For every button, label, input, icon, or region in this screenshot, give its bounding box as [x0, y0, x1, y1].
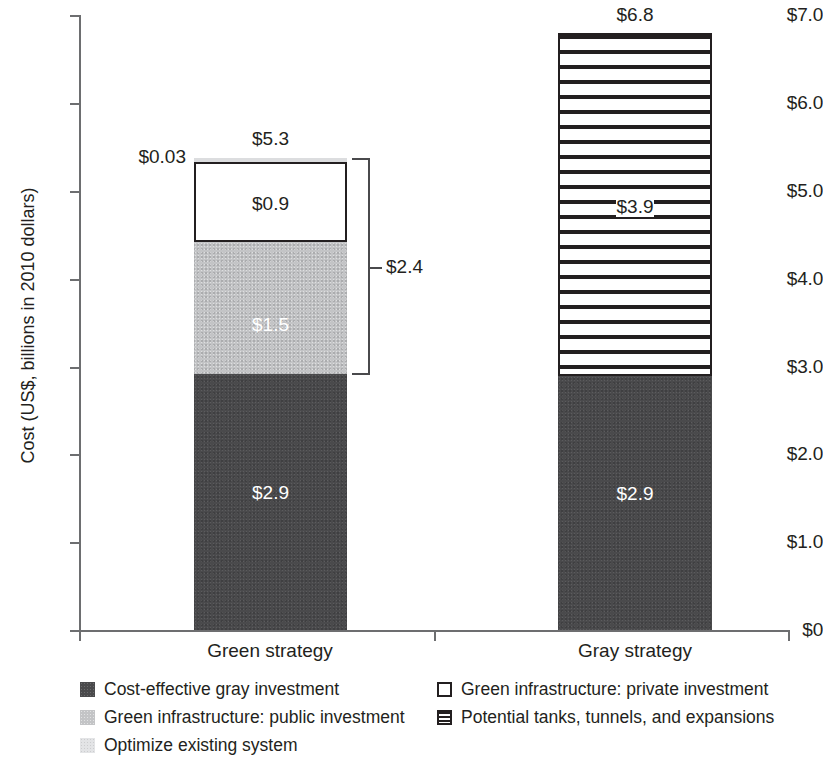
y-tick-5: [70, 191, 80, 193]
bracket-green-incremental: [352, 158, 370, 375]
x-tick-start: [79, 630, 81, 641]
legend-item-green-private-investment: Green infrastructure: private investment: [437, 676, 774, 702]
legend-swatch-light-gray-icon: [80, 738, 95, 753]
y-tick-1: [70, 542, 80, 544]
total-label-green: $5.3: [194, 128, 347, 150]
y-tick-7: [70, 15, 80, 17]
legend-column-left: Cost-effective gray investment Green inf…: [80, 676, 405, 760]
y-tick-label-0: $0: [761, 619, 823, 641]
legend-item-green-public-investment: Green infrastructure: public investment: [80, 704, 405, 730]
segment-label-base-gray: $2.9: [558, 484, 712, 503]
y-tick-label-5: $5.0: [761, 180, 823, 202]
bar-green-strategy: $0.9 $1.5 $2.9: [194, 158, 347, 630]
callout-label-optimize: $0.03: [108, 146, 186, 168]
legend-label-green-public-investment: Green infrastructure: public investment: [104, 707, 405, 728]
y-tick-2: [70, 454, 80, 456]
segment-cost-effective-gray-green-bar: $2.9: [194, 374, 347, 630]
y-tick-label-3: $3.0: [761, 356, 823, 378]
y-tick-label-4: $4.0: [761, 268, 823, 290]
total-label-gray: $6.8: [558, 4, 712, 26]
legend-label-potential-tanks-tunnels-expansions: Potential tanks, tunnels, and expansions: [461, 707, 774, 728]
bar-gray-strategy: $3.9 $2.9: [558, 33, 712, 630]
y-tick-3: [70, 367, 80, 369]
x-category-label-green-strategy: Green strategy: [180, 640, 360, 662]
segment-label-potential: $3.9: [560, 197, 710, 216]
segment-cost-effective-gray-gray-bar: $2.9: [558, 376, 712, 630]
x-category-label-gray-strategy: Gray strategy: [545, 640, 725, 662]
x-tick-mid: [434, 630, 436, 641]
segment-potential-tanks-tunnels-expansions: $3.9: [558, 33, 712, 376]
legend-column-right: Green infrastructure: private investment…: [437, 676, 774, 732]
legend-item-cost-effective-gray-investment: Cost-effective gray investment: [80, 676, 405, 702]
legend-swatch-mid-gray-icon: [80, 710, 95, 725]
y-tick-label-1: $1.0: [761, 531, 823, 553]
bracket-top-arm: [352, 158, 370, 160]
y-tick-label-6: $6.0: [761, 92, 823, 114]
segment-green-private-investment: $0.9: [194, 162, 347, 242]
legend-label-green-private-investment: Green infrastructure: private investment: [461, 679, 768, 700]
legend-label-optimize-existing-system: Optimize existing system: [104, 735, 298, 756]
y-axis-title: Cost (US$, billions in 2010 dollars): [18, 46, 39, 606]
segment-green-public-investment: $1.5: [194, 242, 347, 374]
y-tick-4: [70, 279, 80, 281]
y-tick-6: [70, 103, 80, 105]
legend-item-potential-tanks-tunnels-expansions: Potential tanks, tunnels, and expansions: [437, 704, 774, 730]
legend-label-cost-effective-gray-investment: Cost-effective gray investment: [104, 679, 339, 700]
legend-swatch-striped-icon: [437, 710, 452, 725]
segment-label-private: $0.9: [196, 194, 345, 213]
segment-label-base-green: $2.9: [194, 483, 347, 502]
legend-item-optimize-existing-system: Optimize existing system: [80, 732, 405, 758]
y-tick-label-2: $2.0: [761, 443, 823, 465]
y-tick-label-7: $7.0: [761, 4, 823, 26]
y-axis-line: [79, 15, 81, 631]
bracket-label-green: $2.4: [386, 256, 423, 278]
stacked-bar-chart: Cost (US$, billions in 2010 dollars) $7.…: [0, 0, 823, 763]
legend-swatch-dark-gray-icon: [80, 682, 95, 697]
bracket-nub: [369, 267, 382, 269]
legend-swatch-white-outline-icon: [437, 682, 452, 697]
segment-label-public: $1.5: [194, 315, 347, 334]
bracket-bottom-arm: [352, 373, 370, 375]
x-tick-end: [788, 630, 790, 641]
